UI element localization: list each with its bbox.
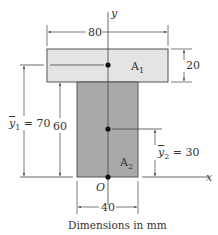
centroid-a2-dot bbox=[105, 126, 110, 131]
dim-60-label: 60 bbox=[53, 121, 67, 132]
dim-20-label: 20 bbox=[186, 60, 200, 71]
area-a2-name: A bbox=[120, 156, 128, 169]
area-a1-name: A bbox=[131, 60, 139, 73]
origin-label: O bbox=[96, 182, 105, 193]
ybar2-label: y2 = 30 bbox=[158, 147, 200, 158]
ybar1-label: y1 = 70 bbox=[9, 118, 51, 129]
area-a2-label: A2 bbox=[120, 157, 133, 168]
ybar2-sub: 2 bbox=[164, 152, 169, 161]
area-a1-label: A1 bbox=[131, 61, 144, 72]
dim-80-label: 80 bbox=[88, 27, 102, 38]
y-axis-label: y bbox=[111, 8, 117, 19]
ybar1-value: = 70 bbox=[24, 117, 51, 130]
area-a1-sub: 1 bbox=[139, 66, 144, 75]
origin-dot bbox=[105, 174, 110, 179]
centroid-a1-dot bbox=[105, 62, 110, 67]
ybar1-sub: 1 bbox=[15, 123, 20, 132]
area-a2-sub: 2 bbox=[128, 162, 133, 171]
figure-caption: Dimensions in mm bbox=[68, 220, 167, 231]
x-axis-label: x bbox=[206, 172, 212, 183]
dim-40-label: 40 bbox=[101, 202, 115, 213]
ybar2-value: = 30 bbox=[173, 146, 200, 159]
